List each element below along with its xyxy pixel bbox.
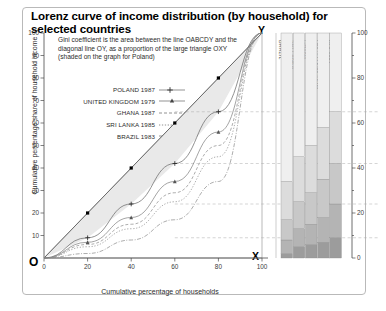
vertex-label-o: O xyxy=(29,255,38,269)
legend-key-plus-marker-line xyxy=(158,86,186,94)
point-label-d: D xyxy=(224,79,231,89)
legend: POLAND 1987 UNITED KINGDOM 1979 GHANA 19… xyxy=(36,84,186,142)
bar-label-sri-lanka: SRI LANKA xyxy=(290,40,296,69)
legend-label: GHANA 1987 xyxy=(117,109,155,116)
point-label-b: B xyxy=(137,167,144,177)
legend-key-dashed-line xyxy=(158,109,186,117)
point-label-a: A xyxy=(92,206,99,216)
vertex-label-x: X xyxy=(252,250,259,262)
legend-item-brazil: BRAZIL 1983 xyxy=(36,130,186,142)
bar-label-united-kingdom: UNITED KINGDOM xyxy=(314,40,320,89)
legend-key-triangle-marker-line xyxy=(158,97,186,105)
legend-label: SRI LANKA 1985 xyxy=(106,121,155,128)
bar-label-poland: POLAND xyxy=(326,40,332,63)
y-axis-label: Cumulative percentage share of household… xyxy=(31,31,38,201)
legend-item-united-kingdom: UNITED KINGDOM 1979 xyxy=(36,96,186,108)
page-title: Lorenz curve of income distribution (by … xyxy=(31,9,349,35)
legend-item-poland: POLAND 1987 xyxy=(36,84,186,96)
legend-label: POLAND 1987 xyxy=(113,86,155,93)
bar-label-brazil: BRAZIL xyxy=(278,40,284,60)
legend-label: UNITED KINGDOM 1979 xyxy=(83,98,155,105)
chart-page: Lorenz curve of income distribution (by … xyxy=(0,0,386,311)
vertex-label-y: Y xyxy=(258,24,265,36)
point-label-c: C xyxy=(182,127,189,137)
legend-item-sri-lanka: SRI LANKA 1985 xyxy=(36,119,186,131)
bar-label-ghana: GHANA xyxy=(302,40,308,60)
gini-note: Gini coefficient is the area between the… xyxy=(58,36,248,62)
x-axis-label: Cumulative percentage of households xyxy=(60,288,260,295)
legend-item-ghana: GHANA 1987 xyxy=(36,107,186,119)
legend-label: BRAZIL 1983 xyxy=(117,133,155,140)
